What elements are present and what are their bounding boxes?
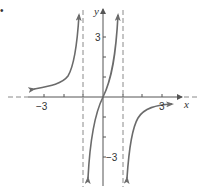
problem-bullet: • [0, 5, 4, 16]
y-tick-label-3: 3 [95, 32, 101, 43]
curve-left-branch [34, 15, 79, 89]
function-graph: • x y −3 3 3 −3 [0, 0, 200, 187]
x-tick-label-neg3: −3 [36, 101, 48, 112]
x-tick-label-3: 3 [159, 101, 165, 112]
curve-right-branch [127, 104, 172, 178]
x-axis-label: x [183, 98, 189, 110]
y-tick-label-neg3: −3 [106, 152, 118, 163]
y-axis-label: y [93, 5, 99, 17]
